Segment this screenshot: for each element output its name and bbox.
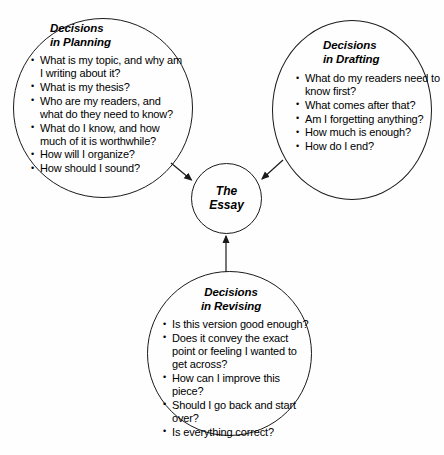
planning-question-item: How will I organize? xyxy=(31,148,183,161)
revising-question-item: How can I improve this piece? xyxy=(163,372,311,398)
revising-question-item: Is this version good enough? xyxy=(163,318,311,331)
planning-question-item: What is my topic, and why am I writing a… xyxy=(31,54,183,80)
planning-question-item: What do I know, and how much of it is wo… xyxy=(31,122,183,148)
planning-question-item: What is my thesis? xyxy=(31,81,183,94)
essay-label-line-2: Essay xyxy=(191,198,262,212)
revising-question-item: Is everything correct? xyxy=(163,426,311,439)
planning-question-list: What is my topic, and why am I writing a… xyxy=(31,54,183,175)
planning-title-line-1: Decisions xyxy=(50,22,183,36)
revising-question-item: Does it convey the exact point or feelin… xyxy=(163,332,311,372)
planning-title: Decisions in Planning xyxy=(50,22,183,49)
drafting-question-item: How much is enough? xyxy=(296,126,444,139)
essay-label: The Essay xyxy=(191,184,262,212)
drafting-title: Decisions in Drafting xyxy=(323,39,433,66)
revising-question-list: Is this version good enough? Does it con… xyxy=(163,318,311,439)
essay-label-line-1: The xyxy=(191,184,262,198)
drafting-title-line-1: Decisions xyxy=(323,39,433,53)
drafting-content: Decisions in Drafting What do my readers… xyxy=(285,39,433,154)
drafting-question-item: What comes after that? xyxy=(296,99,444,112)
essay-decisions-diagram: Decisions in Planning What is my topic, … xyxy=(0,0,444,455)
planning-content: Decisions in Planning What is my topic, … xyxy=(31,22,183,176)
planning-question-item: Who are my readers, and what do they nee… xyxy=(31,95,183,121)
planning-question-item: How should I sound? xyxy=(31,162,183,175)
revising-title: Decisions in Revising xyxy=(159,286,309,313)
planning-title-line-2: in Planning xyxy=(50,36,183,50)
drafting-question-item: How do I end? xyxy=(296,140,444,153)
drafting-title-line-2: in Drafting xyxy=(323,53,433,67)
drafting-question-list: What do my readers need to know first? W… xyxy=(296,72,444,153)
revising-title-line-2: in Revising xyxy=(159,300,303,314)
drafting-question-item: What do my readers need to know first? xyxy=(296,72,444,98)
revising-content: Decisions in Revising Is this version go… xyxy=(159,286,309,439)
arrow-drafting-to-essay xyxy=(262,160,283,179)
drafting-question-item: Am I forgetting anything? xyxy=(296,113,444,126)
revising-question-item: Should I go back and start over? xyxy=(163,399,311,425)
revising-title-line-1: Decisions xyxy=(159,286,303,300)
